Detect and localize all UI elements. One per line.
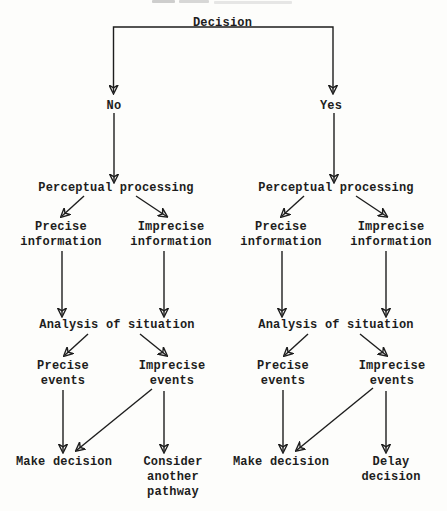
arrow-right-perceptual-to-imprecise-info bbox=[356, 196, 386, 216]
left-make-decision-node: Make decision bbox=[16, 455, 112, 470]
right-precise-information-node: Precise information bbox=[240, 220, 321, 250]
arrow-right-analysis-to-precise-events bbox=[285, 334, 308, 355]
right-imprecise-events-node: Imprecise events bbox=[359, 359, 426, 389]
delay-decision-node: Delay decision bbox=[361, 455, 420, 485]
left-precise-information-node: Precise information bbox=[20, 220, 101, 250]
arrow-left-perceptual-to-imprecise-info bbox=[136, 196, 166, 216]
consider-another-pathway-node: Consider another pathway bbox=[143, 455, 202, 500]
root-node-decision: Decision bbox=[193, 16, 252, 31]
left-imprecise-events-node: Imprecise events bbox=[139, 359, 206, 389]
right-analysis-of-situation-node: Analysis of situation bbox=[258, 318, 413, 333]
arrow-left-analysis-to-imprecise-events bbox=[140, 334, 166, 355]
arrow-right-imprecise-events-to-make-decision bbox=[297, 388, 373, 450]
left-precise-events-node: Precise events bbox=[37, 359, 89, 389]
arrow-right-perceptual-to-precise-info bbox=[282, 196, 304, 216]
connector-layer bbox=[0, 0, 447, 511]
right-precise-events-node: Precise events bbox=[257, 359, 309, 389]
arrow-left-imprecise-events-to-make-decision bbox=[77, 389, 152, 450]
left-perceptual-processing-node: Perceptual processing bbox=[38, 181, 193, 196]
arrow-right-analysis-to-imprecise-events bbox=[360, 334, 386, 355]
decision-flowchart: Decision No Yes Perceptual processing Pe… bbox=[0, 0, 447, 511]
branch-node-yes: Yes bbox=[320, 99, 342, 114]
arrow-left-perceptual-to-precise-info bbox=[62, 196, 84, 216]
arrow-left-analysis-to-precise-events bbox=[65, 334, 88, 355]
left-analysis-of-situation-node: Analysis of situation bbox=[39, 318, 194, 333]
right-imprecise-information-node: Imprecise information bbox=[350, 220, 431, 250]
right-make-decision-node: Make decision bbox=[233, 455, 329, 470]
arrow-decision-bracket bbox=[114, 27, 334, 92]
branch-node-no: No bbox=[107, 99, 122, 114]
right-perceptual-processing-node: Perceptual processing bbox=[258, 181, 413, 196]
left-imprecise-information-node: Imprecise information bbox=[130, 220, 211, 250]
